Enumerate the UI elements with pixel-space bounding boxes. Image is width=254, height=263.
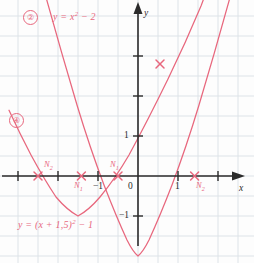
zero-markers	[34, 60, 199, 180]
x-tick-label--1: −1	[93, 182, 103, 192]
x-tick-label-1: 1	[175, 182, 180, 192]
marker-point-on-curve	[156, 60, 164, 68]
y-tick-label--1: −1	[119, 211, 129, 221]
graph-figure: ② y = x2 − 2 ④ y = (x + 1,5)2 − 1 N2 N1 …	[0, 0, 254, 263]
y-axis-arrowhead	[134, 2, 143, 14]
curve-badge-2: ②	[23, 10, 38, 25]
curve-badge-4: ④	[9, 113, 24, 128]
origin-label: 0	[128, 182, 133, 192]
x-axis-label: x	[239, 184, 243, 194]
y-axis-label: y	[144, 9, 148, 19]
y-tick-label-1: 1	[124, 131, 129, 141]
